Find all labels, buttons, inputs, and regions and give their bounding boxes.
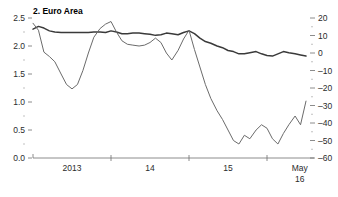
x-tick-label-may: May [292, 163, 309, 173]
x-tick-label: 14 [145, 163, 155, 173]
right-tick-label: 20 [318, 13, 328, 23]
series-layer [33, 22, 306, 145]
right-tick-label: –20 [318, 83, 332, 93]
page-title: 2. Euro Area [33, 6, 83, 16]
left-tick-label: 1.5 [13, 69, 25, 79]
right-tick-label: –60 [318, 153, 332, 163]
right-tick-label: –10 [318, 66, 332, 76]
right-tick-label: 10 [318, 31, 328, 41]
series-line-left-axis-series [33, 26, 306, 56]
x-tick-label: 2013 [63, 163, 82, 173]
labels-layer: 20131415May16 [63, 163, 309, 184]
right-tick-label: –40 [318, 118, 332, 128]
left-axis-ticks: 0.00.51.01.52.02.5 [13, 13, 33, 163]
right-tick-label: –30 [318, 101, 332, 111]
chart-canvas: 0.00.51.01.52.02.5 20100–10–20–30–40–50–… [0, 0, 338, 197]
x-tick-label: 15 [223, 163, 233, 173]
series-line-right-axis-series [33, 22, 306, 145]
left-tick-label: 0.5 [13, 125, 25, 135]
left-tick-label: 2.0 [13, 41, 25, 51]
right-axis-ticks: 20100–10–20–30–40–50–60 [310, 13, 332, 163]
euro-area-chart-panel: 0.00.51.01.52.02.5 20100–10–20–30–40–50–… [0, 0, 338, 197]
left-tick-label: 2.5 [13, 13, 25, 23]
left-tick-label: 1.0 [13, 97, 25, 107]
x-tick-label-year: 16 [295, 174, 305, 184]
right-tick-label: –50 [318, 136, 332, 146]
right-tick-label: 0 [318, 48, 323, 58]
left-tick-label: 0.0 [13, 153, 25, 163]
